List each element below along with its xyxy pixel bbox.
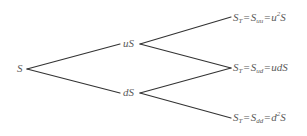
leaf-ud-label: ST=Sud=udS xyxy=(233,62,288,73)
leaf-ud-eq2: = xyxy=(264,61,270,73)
leaf-uu-mid-sub: uu xyxy=(256,17,263,25)
edge-up-ud xyxy=(140,44,231,68)
leaf-ud-lhs-sub: T xyxy=(239,67,243,75)
leaf-dd-eq: = xyxy=(243,111,249,123)
leaf-ud-rhs: udS xyxy=(271,61,288,73)
edge-root-down xyxy=(27,69,120,93)
leaf-dd-lhs-sub: T xyxy=(239,117,243,125)
leaf-dd-mid-sub: dd xyxy=(256,117,263,125)
leaf-uu-eq2: = xyxy=(264,11,270,23)
leaf-dd-label: ST=Sdd=d2S xyxy=(233,112,286,123)
node-up-label: uS xyxy=(123,38,134,49)
binomial-tree-diagram: S uS dS ST=Suu=u2S ST=Sud=udS ST=Sdd=d2S xyxy=(0,0,307,136)
edge-root-up xyxy=(27,44,120,69)
leaf-dd-eq2: = xyxy=(264,111,270,123)
edge-down-ud xyxy=(140,68,231,93)
leaf-uu-rhs-post: S xyxy=(280,11,286,23)
edge-up-uu xyxy=(140,17,231,44)
node-down-label: dS xyxy=(123,87,134,98)
node-root-label: S xyxy=(17,63,23,74)
leaf-uu-label: ST=Suu=u2S xyxy=(233,12,286,23)
leaf-dd-rhs-post: S xyxy=(280,111,286,123)
leaf-ud-mid-sub: ud xyxy=(256,67,263,75)
leaf-uu-lhs-sub: T xyxy=(239,17,243,25)
leaf-ud-eq: = xyxy=(243,61,249,73)
edge-down-dd xyxy=(140,93,231,118)
leaf-uu-eq: = xyxy=(243,11,249,23)
